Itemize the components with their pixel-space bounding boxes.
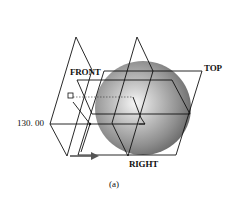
- right-plane-label: RIGHT: [129, 160, 158, 169]
- dimension-value: 130. 00: [17, 119, 44, 128]
- figure-caption: (a): [109, 180, 119, 189]
- top-plane-label: TOP: [204, 64, 222, 73]
- arrow-icon: [91, 152, 99, 160]
- diagram-canvas: FRONT TOP RIGHT 130. 00 (a): [0, 0, 236, 202]
- datum-planes-figure: [0, 0, 236, 202]
- intersection-point: [89, 123, 91, 125]
- sphere-body: [95, 61, 191, 155]
- square-marker: [68, 93, 73, 98]
- front-plane-label: FRONT: [70, 68, 101, 77]
